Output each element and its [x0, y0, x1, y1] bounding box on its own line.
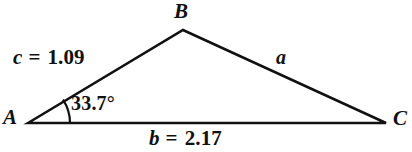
- triangle-figure: A B C a c=1.09 b=2.17 33.7°: [0, 0, 412, 152]
- vertex-label-B: B: [174, 1, 188, 22]
- side-label-b: b=2.17: [149, 128, 222, 149]
- side-c-variable: c: [13, 45, 22, 69]
- side-b-value: 2.17: [185, 126, 222, 150]
- side-b-operator: =: [160, 126, 185, 150]
- vertex-label-C: C: [393, 108, 407, 129]
- side-label-c: c=1.09: [13, 47, 85, 68]
- side-b-variable: b: [149, 126, 160, 150]
- side-c-value: 1.09: [48, 45, 85, 69]
- side-c-operator: =: [22, 45, 47, 69]
- vertex-label-A: A: [3, 107, 17, 128]
- side-label-a: a: [276, 47, 286, 67]
- angle-arc-at-A: [63, 100, 70, 123]
- angle-measure-label-A: 33.7°: [71, 93, 115, 113]
